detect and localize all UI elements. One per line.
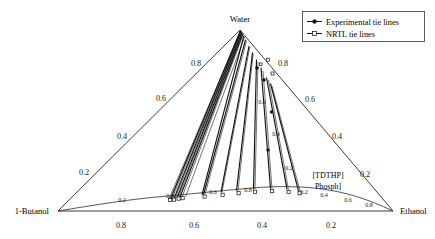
triangle-axes xyxy=(58,30,393,211)
experimental-tie-line xyxy=(171,31,241,199)
corner-label-ethanol: Ethanol xyxy=(400,206,427,216)
nrtl-endpoint-marker xyxy=(203,195,206,198)
nrtl-endpoint-marker xyxy=(177,197,180,200)
left-axis-ticks-group: 0.8 0.6 0.4 0.2 xyxy=(79,59,201,177)
right-tick-0.4: 0.4 xyxy=(332,132,342,141)
experimental-endpoint-marker xyxy=(256,67,259,70)
inner-left-tick-0.2: 0.2 xyxy=(118,197,126,203)
experimental-endpoint-marker xyxy=(270,111,273,114)
legend-label-experimental: Experimental tie lines xyxy=(326,18,399,27)
legend-label-nrtl: NRTL tie lines xyxy=(326,30,375,39)
inner-left-ticks-group: 0.2 0.4 0.6 xyxy=(118,189,217,203)
experimental-endpoint-marker xyxy=(267,149,270,152)
phosphonium-annotation-group: [TDTHP] Phosph] xyxy=(312,171,343,191)
right-tick-0.2: 0.2 xyxy=(360,170,370,179)
bottom-tick-0.2: 0.2 xyxy=(326,221,336,230)
inner-far-right-tick-0.8: 0.8 xyxy=(365,202,373,208)
corner-label-water: Water xyxy=(230,14,250,24)
legend-marker-square-icon xyxy=(313,32,317,36)
binodal-curve xyxy=(58,187,393,211)
experimental-endpoint-marker xyxy=(263,79,266,82)
binodal-curve-group xyxy=(58,187,393,211)
experimental-tie-lines-group xyxy=(171,31,299,199)
ternary-plot-svg: Water 1-Butanol Ethanol 0.8 0.6 0.4 0.2 … xyxy=(0,0,435,239)
legend-marker-dot-icon xyxy=(313,20,317,24)
right-tick-0.8: 0.8 xyxy=(278,59,288,68)
inner-right-tick-0.4: 0.4 xyxy=(320,192,328,198)
nrtl-endpoint-marker xyxy=(237,192,240,195)
inner-fraction-label: 0.4 xyxy=(272,131,280,137)
nrtl-endpoint-marker xyxy=(271,72,274,75)
left-tick-0.8: 0.8 xyxy=(191,59,201,68)
nrtl-tie-line xyxy=(238,54,253,191)
axis-left-water-butanol xyxy=(58,30,240,211)
nrtl-tie-line xyxy=(179,33,243,198)
experimental-tie-line xyxy=(254,60,257,190)
nrtl-tie-line xyxy=(175,32,241,198)
nrtl-endpoint-marker xyxy=(181,197,184,200)
bottom-tick-0.6: 0.6 xyxy=(189,221,199,230)
nrtl-endpoint-marker xyxy=(271,190,274,193)
inner-left-tick-0.4: 0.4 xyxy=(166,193,174,199)
nrtl-endpoint-marker xyxy=(266,58,269,61)
inner-fraction-label: 0.6 xyxy=(258,99,266,105)
nrtl-endpoint-marker xyxy=(254,190,257,193)
corner-label-1-butanol: 1-Butanol xyxy=(15,206,50,216)
annotation-line-1: [TDTHP] xyxy=(312,171,343,180)
bottom-axis-ticks-group: 0.8 0.6 0.4 0.2 xyxy=(116,221,336,230)
ternary-phase-diagram-figure: Water 1-Butanol Ethanol 0.8 0.6 0.4 0.2 … xyxy=(0,0,435,239)
annotation-line-2: Phosph] xyxy=(315,182,342,191)
nrtl-endpoint-marker xyxy=(221,193,224,196)
inner-right-tick-0.6: 0.6 xyxy=(344,197,352,203)
inner-mid-tick-0.8: 0.8 xyxy=(244,187,252,193)
legend[interactable]: Experimental tie lines NRTL tie lines xyxy=(303,12,425,42)
corner-labels-group: Water 1-Butanol Ethanol xyxy=(15,14,428,216)
nrtl-endpoint-marker xyxy=(287,190,290,193)
bottom-tick-0.8: 0.8 xyxy=(116,221,126,230)
left-tick-0.2: 0.2 xyxy=(79,168,89,177)
experimental-tie-line xyxy=(261,68,271,189)
nrtl-endpoint-marker xyxy=(260,63,263,66)
inner-fraction-labels-group: 0.6 0.4 0.2 xyxy=(258,99,293,171)
inner-right-ticks-group: 0.8 0.2 0.4 0.6 0.8 xyxy=(244,187,373,208)
inner-fraction-label: 0.2 xyxy=(285,165,293,171)
left-tick-0.6: 0.6 xyxy=(156,94,166,103)
left-tick-0.4: 0.4 xyxy=(117,132,127,141)
inner-left-tick-0.6: 0.6 xyxy=(209,189,217,195)
nrtl-tie-line xyxy=(263,71,272,189)
bottom-tick-0.4: 0.4 xyxy=(257,221,267,230)
right-tick-0.6: 0.6 xyxy=(305,95,315,104)
inner-right-tick-0.2: 0.2 xyxy=(300,189,308,195)
